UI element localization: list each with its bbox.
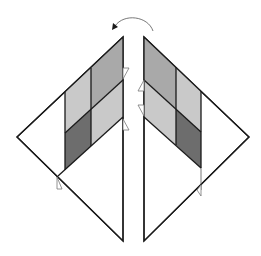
left-marker-2 [123, 119, 129, 130]
left-marker-1 [123, 68, 129, 79]
left-piece [17, 37, 129, 241]
fold-diagram [0, 0, 261, 256]
right-piece [138, 37, 249, 241]
right-marker-2 [138, 105, 144, 116]
flip-arrow-icon [112, 18, 153, 31]
right-marker-1 [138, 80, 144, 91]
